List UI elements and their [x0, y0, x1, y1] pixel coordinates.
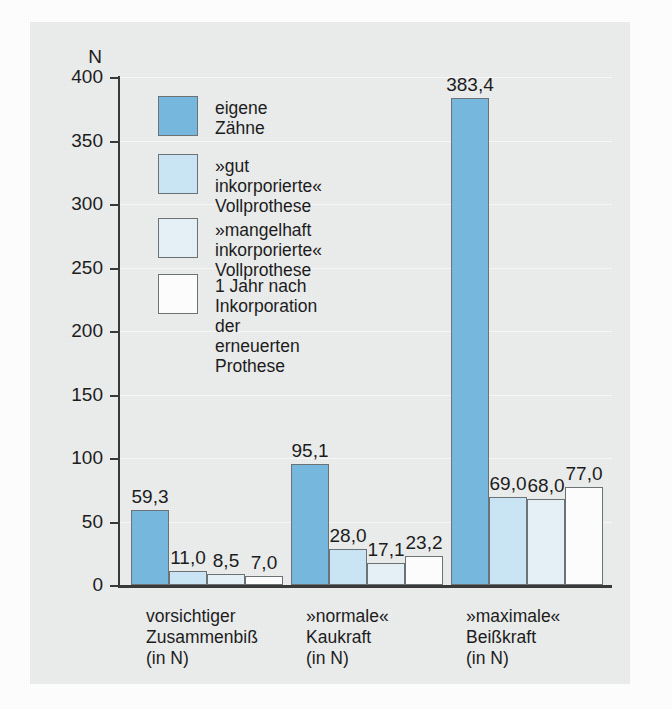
y-axis-unit-label: N	[70, 46, 120, 68]
y-axis-tick-label: 0	[45, 575, 103, 594]
y-axis-tick-label: 150	[45, 385, 103, 404]
y-axis-tick	[110, 395, 119, 397]
legend-label: eigene Zähne	[215, 96, 268, 138]
y-axis-tick	[110, 77, 119, 79]
bar	[489, 497, 527, 585]
bar-value-label: 59,3	[119, 487, 181, 506]
bar	[207, 574, 245, 585]
bar	[169, 571, 207, 585]
gridline	[120, 77, 612, 78]
legend-swatch	[158, 274, 198, 314]
bar	[367, 563, 405, 585]
legend-item: eigene Zähne	[158, 96, 268, 138]
legend-swatch	[158, 154, 198, 194]
y-axis-tick-label: 200	[45, 321, 103, 340]
y-axis-tick-label: 300	[45, 194, 103, 213]
y-axis-tick-label: 400	[45, 67, 103, 86]
y-axis-tick-label: 100	[45, 448, 103, 467]
bar	[405, 556, 443, 585]
gridline	[120, 141, 612, 142]
bar	[291, 464, 329, 585]
bar	[527, 499, 565, 585]
legend-label: 1 Jahr nach Inkorporation der erneuerten…	[215, 274, 317, 376]
y-axis-tick	[110, 522, 119, 524]
bar-value-label: 23,2	[393, 533, 455, 552]
legend-item: »mangelhaft inkorporierte« Vollprothese	[158, 218, 322, 280]
legend-label: »mangelhaft inkorporierte« Vollprothese	[215, 218, 322, 280]
y-axis-tick	[110, 268, 119, 270]
bar-value-label: 77,0	[553, 464, 615, 483]
bar	[565, 487, 603, 585]
bar-value-label: 95,1	[279, 441, 341, 460]
y-axis-tick-label: 350	[45, 131, 103, 150]
y-axis-tick	[110, 141, 119, 143]
legend-label: »gut inkorporierte« Vollprothese	[215, 154, 322, 216]
bar	[451, 98, 489, 585]
x-axis-category-label: »maximale« Beißkraft (in N)	[466, 606, 560, 669]
legend-swatch	[158, 218, 198, 258]
bar-value-label: 383,4	[439, 75, 501, 94]
bar	[245, 576, 283, 585]
legend-swatch	[158, 96, 198, 136]
x-axis-line	[118, 585, 612, 588]
x-axis-category-label: vorsichtiger Zusammenbiß (in N)	[146, 606, 258, 669]
legend-item: 1 Jahr nach Inkorporation der erneuerten…	[158, 274, 317, 376]
gridline	[120, 458, 612, 459]
legend-item: »gut inkorporierte« Vollprothese	[158, 154, 322, 216]
y-axis-tick	[110, 458, 119, 460]
y-axis-tick	[110, 585, 119, 587]
x-axis-category-label: »normale« Kaukraft (in N)	[306, 606, 389, 669]
bar-value-label: 7,0	[233, 553, 295, 572]
y-axis-tick	[110, 204, 119, 206]
y-axis-tick-label: 50	[45, 512, 103, 531]
y-axis-tick	[110, 331, 119, 333]
chart-figure: N 050100150200250300350400 59,311,08,57,…	[0, 0, 672, 709]
y-axis-tick-label: 250	[45, 258, 103, 277]
gridline	[120, 395, 612, 396]
